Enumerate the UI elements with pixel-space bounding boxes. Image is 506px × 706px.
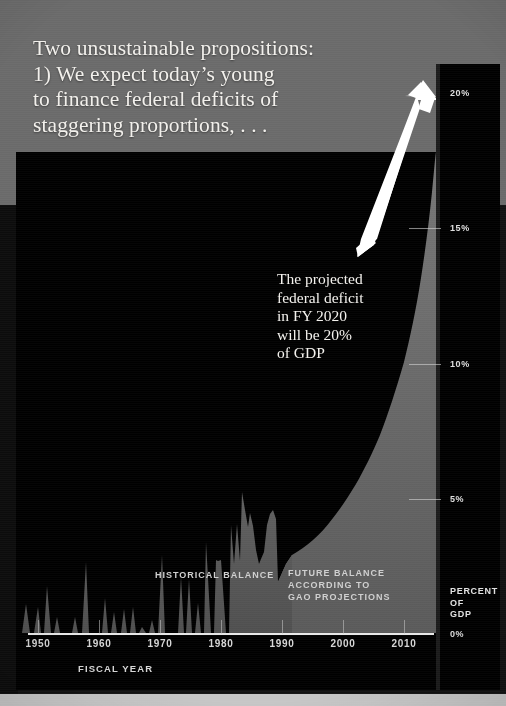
- x-tick-label-1960: 1960: [86, 638, 111, 649]
- x-tick-label-2000: 2000: [330, 638, 355, 649]
- historical-balance-area: [16, 492, 292, 633]
- projection-callout: The projected federal deficit in FY 2020…: [277, 270, 407, 363]
- y-gridline-5: [409, 499, 441, 500]
- x-tick-label-1990: 1990: [269, 638, 294, 649]
- x-tick-label-1950: 1950: [25, 638, 50, 649]
- y-tick-label-0: 0%: [450, 629, 464, 639]
- series-label-historical: HISTORICAL BALANCE: [155, 569, 274, 581]
- x-tick-mark-2000: [343, 620, 344, 634]
- x-axis-baseline: [28, 633, 434, 635]
- future-balance-area: [292, 152, 436, 633]
- chart-svg: [16, 152, 436, 690]
- y-tick-label-15: 15%: [450, 223, 470, 233]
- y-tick-label-20: 20%: [450, 88, 470, 98]
- x-tick-mark-1960: [99, 620, 100, 634]
- y-tick-label-10: 10%: [450, 359, 470, 369]
- y-gridline-15: [409, 228, 441, 229]
- y-tick-label-5: 5%: [450, 494, 464, 504]
- x-tick-label-1980: 1980: [208, 638, 233, 649]
- x-axis-title: FISCAL YEAR: [78, 663, 153, 674]
- x-tick-mark-1980: [221, 620, 222, 634]
- x-tick-mark-1950: [38, 620, 39, 634]
- slide-canvas: Two unsustainable propositions: 1) We ex…: [0, 0, 506, 706]
- page-bottom-edge: [0, 694, 506, 706]
- y-axis-title: PERCENT OF GDP: [450, 586, 498, 621]
- x-tick-mark-2010: [404, 620, 405, 634]
- x-tick-label-2010: 2010: [391, 638, 416, 649]
- x-tick-mark-1970: [160, 620, 161, 634]
- series-label-future: FUTURE BALANCE ACCORDING TO GAO PROJECTI…: [288, 567, 391, 603]
- chart-plot-area: [16, 152, 436, 690]
- x-tick-mark-1990: [282, 620, 283, 634]
- x-tick-label-1970: 1970: [147, 638, 172, 649]
- y-gridline-10: [409, 364, 441, 365]
- page-title: Two unsustainable propositions: 1) We ex…: [33, 36, 378, 138]
